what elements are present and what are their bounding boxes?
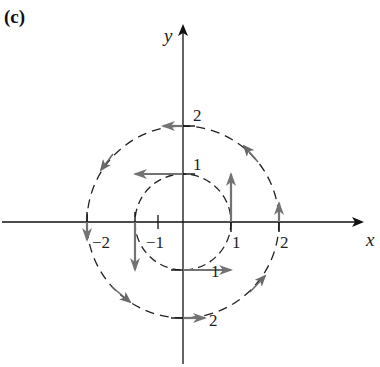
- x-axis-label: x: [365, 229, 375, 250]
- label-x-neg2: −2: [92, 233, 110, 252]
- label-y-neg2: 2: [209, 311, 218, 330]
- label-y-neg1: 1: [211, 262, 220, 281]
- direction-arrow-lower-right: [250, 276, 265, 292]
- label-y-1: 1: [193, 155, 202, 174]
- axes: [2, 26, 362, 364]
- label-x-neg1: −1: [146, 233, 164, 252]
- vector-field-diagram: y x 2 1 1 2 −1 −2 1 2: [0, 0, 380, 367]
- direction-arrow-upper-right: [244, 146, 258, 162]
- label-x-2: 2: [280, 233, 289, 252]
- direction-arrow-lower-left: [112, 287, 130, 302]
- label-x-1: 1: [232, 233, 241, 252]
- y-axis-label: y: [162, 25, 173, 46]
- label-y-2: 2: [193, 106, 202, 125]
- direction-arrow-upper-left: [101, 154, 113, 170]
